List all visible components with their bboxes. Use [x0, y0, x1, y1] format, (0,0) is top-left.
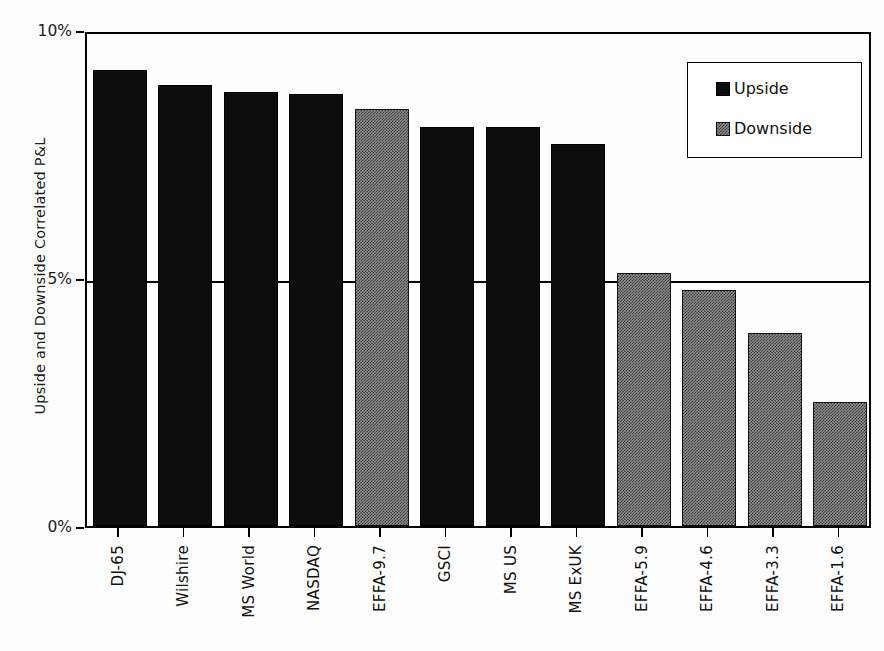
chart-legend: UpsideDownside [687, 62, 862, 158]
legend-item-downside: Downside [716, 119, 812, 138]
legend-label: Upside [734, 79, 789, 98]
bar-effa-5-9 [617, 273, 671, 526]
y-axis-tick-mark [76, 31, 84, 33]
bar-wilshire [158, 85, 212, 526]
x-axis-tick-label: MS ExUK [567, 545, 585, 614]
x-axis-tick-mark [772, 528, 774, 537]
x-axis-tick-mark [379, 528, 381, 537]
x-axis-tick-mark [117, 528, 119, 537]
x-axis-tick-label: Wilshire [174, 545, 192, 607]
x-axis-tick-label: EFFA-9.7 [371, 545, 389, 612]
x-axis-tick-mark [248, 528, 250, 537]
bar-effa-3-3 [748, 333, 802, 526]
x-axis-tick-label: EFFA-1.6 [829, 545, 847, 612]
x-axis-tick-label: MS US [502, 545, 520, 594]
x-axis-tick-label: EFFA-3.3 [764, 545, 782, 612]
y-axis-tick-mark [76, 527, 84, 529]
bar-gsci [420, 127, 474, 526]
x-axis-tick-label: NASDAQ [305, 545, 323, 611]
legend-item-upside: Upside [716, 79, 789, 98]
x-axis-tick-label: EFFA-4.6 [698, 545, 716, 612]
bar-chart: Upside and Downside Correlated P&L 0%5%1… [0, 0, 884, 651]
x-axis-tick-mark [183, 528, 185, 537]
legend-swatch-upside-icon [716, 82, 730, 96]
x-axis-tick-mark [510, 528, 512, 537]
legend-label: Downside [734, 119, 812, 138]
y-axis-tick-mark [76, 279, 84, 281]
bar-ms-us [486, 127, 540, 526]
bar-effa-1-6 [813, 402, 867, 526]
x-axis-tick-mark [838, 528, 840, 537]
x-axis-tick-mark [445, 528, 447, 537]
y-axis-tick-label: 0% [26, 518, 72, 536]
bar-ms-exuk [551, 144, 605, 526]
x-axis-tick-label: EFFA-5.9 [633, 545, 651, 612]
x-axis-tick-mark [576, 528, 578, 537]
y-axis-tick-label: 5% [26, 270, 72, 288]
y-axis-tick-label: 10% [26, 22, 72, 40]
x-axis-tick-mark [314, 528, 316, 537]
bar-effa-9-7 [355, 109, 409, 526]
x-axis-tick-label: MS World [240, 545, 258, 618]
bar-effa-4-6 [682, 290, 736, 526]
x-axis-tick-mark [641, 528, 643, 537]
x-axis-tick-mark [707, 528, 709, 537]
x-axis-tick-label: DJ-65 [109, 545, 127, 586]
bar-ms-world [224, 92, 278, 526]
bar-nasdaq [289, 94, 343, 526]
legend-swatch-downside-icon [716, 122, 730, 136]
x-axis-tick-label: GSCI [436, 545, 454, 582]
bar-dj-65 [93, 70, 147, 526]
